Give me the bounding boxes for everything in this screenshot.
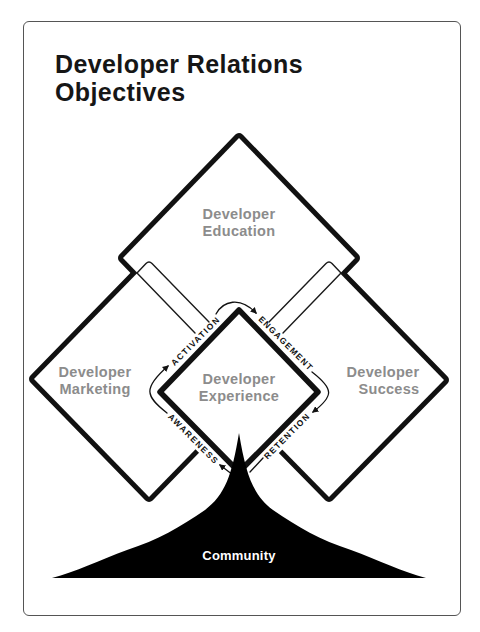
community-label: Community bbox=[202, 548, 276, 563]
area-experience-line2: Experience bbox=[199, 388, 279, 404]
area-education-line2: Education bbox=[203, 223, 276, 239]
area-marketing: Developer Marketing bbox=[59, 364, 132, 397]
area-experience: Developer Experience bbox=[199, 371, 279, 404]
area-experience-line1: Developer bbox=[203, 371, 276, 387]
area-education-line1: Developer bbox=[203, 206, 276, 222]
page-title-line2: Objectives bbox=[55, 78, 185, 106]
area-education: Developer Education bbox=[203, 206, 276, 239]
devrel-objectives-diagram: Developer Relations Objectives bbox=[0, 0, 480, 632]
page: Developer Relations Objectives bbox=[0, 0, 480, 632]
area-success-line1: Developer bbox=[347, 364, 420, 380]
page-title-line1: Developer Relations bbox=[55, 50, 303, 78]
area-success-line2: Success bbox=[359, 381, 420, 397]
area-marketing-line2: Marketing bbox=[59, 381, 130, 397]
area-marketing-line1: Developer bbox=[59, 364, 132, 380]
